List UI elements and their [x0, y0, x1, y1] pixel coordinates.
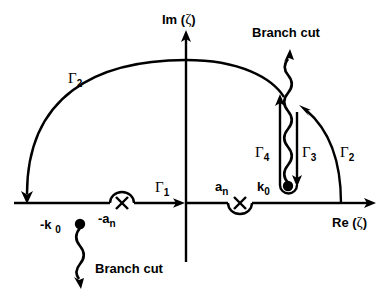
pole-cross-an	[234, 197, 246, 209]
contour-svg	[0, 0, 389, 291]
pole-cross-minus-an	[116, 197, 128, 209]
contour-label-gamma2-left: Γ2	[68, 71, 82, 89]
branch-cut-arrowhead-upper	[284, 49, 294, 62]
contour-label-gamma4: Γ4	[255, 145, 269, 163]
branch-cut-label-upper: Branch cut	[252, 26, 320, 39]
pole-label-minus-k0: -k 0	[40, 218, 61, 235]
branch-cut-wave-lower	[76, 228, 84, 279]
gamma2-left-arc	[27, 60, 284, 194]
imaginary-axis-label: Im (ζ)	[162, 12, 196, 27]
pole-label-an: an	[215, 180, 228, 197]
branch-cut-wave-upper	[284, 59, 292, 183]
real-axis-label: Re (ζ)	[332, 215, 367, 230]
pole-label-k0: k0	[257, 180, 270, 197]
pole-dot-minus-k0	[75, 219, 85, 229]
contour-label-gamma1: Γ1	[155, 180, 169, 198]
branch-cut-label-lower: Branch cut	[95, 262, 163, 275]
pole-label-minus-an: -an	[98, 212, 116, 229]
contour-label-gamma3: Γ3	[302, 145, 316, 163]
contour-diagram-figure: Im (ζ) Re (ζ) Γ1 Γ2 Γ2 Γ3 Γ4 -k 0 -an an…	[0, 0, 389, 291]
contour-label-gamma2-right: Γ2	[340, 145, 354, 163]
